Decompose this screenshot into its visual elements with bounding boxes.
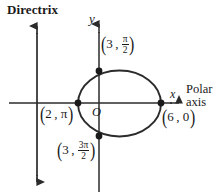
- directrix-label: Directrix: [7, 3, 58, 16]
- paren-open: (: [40, 105, 45, 122]
- point-label-vertex-bottom: ( 3, 3π 2 ): [56, 139, 96, 160]
- x-axis-label: x: [170, 88, 175, 100]
- paren-open: (: [57, 141, 62, 158]
- paren-close: ): [90, 141, 95, 158]
- paren-close: ): [190, 108, 195, 125]
- point-vertex-top: [96, 68, 103, 75]
- fraction-numerator: 3π: [78, 140, 90, 150]
- fraction-denominator: 2: [78, 150, 90, 161]
- coord-theta: π: [61, 107, 68, 120]
- paren-open: (: [162, 108, 167, 125]
- point-vertex-bottom: [96, 133, 103, 140]
- polar-conic-figure: Directrix y x Polar axis O ( 2, π ) ( 3,…: [0, 0, 222, 193]
- coord-theta: 0: [183, 110, 190, 123]
- coord-r: 3: [62, 143, 71, 156]
- point-label-vertex-top: ( 3, π 2 ): [100, 33, 135, 54]
- point-label-vertex-right: ( 6, 0 ): [161, 108, 196, 126]
- coord-r: 3: [106, 37, 115, 50]
- coord-r: 6: [167, 110, 176, 123]
- origin-label: O: [92, 106, 101, 119]
- coord-theta-fraction: π 2: [122, 34, 129, 55]
- coord-r: 2: [45, 107, 54, 120]
- paren-close: ): [68, 105, 73, 122]
- paren-open: (: [101, 35, 106, 52]
- coord-theta-fraction: 3π 2: [78, 140, 90, 161]
- point-vertex-left: [75, 100, 82, 107]
- fraction-denominator: 2: [122, 44, 129, 55]
- point-label-vertex-left: ( 2, π ): [39, 105, 74, 123]
- polar-axis-label-line1: Polar: [186, 83, 212, 96]
- paren-close: ): [129, 35, 134, 52]
- fraction-numerator: π: [122, 34, 129, 44]
- y-axis-label: y: [89, 12, 95, 25]
